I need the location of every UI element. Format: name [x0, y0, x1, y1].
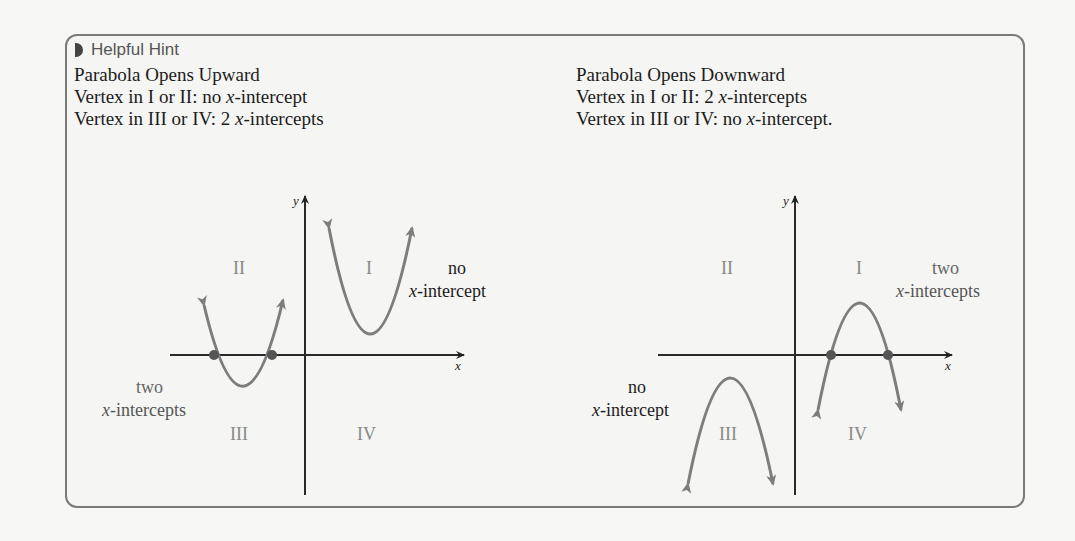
- quadrant-label-iii: III: [719, 424, 737, 445]
- annotation-x-intercept: x-intercept: [409, 281, 486, 302]
- graphs: [0, 0, 1075, 541]
- parabola-two-intercepts: [204, 300, 283, 386]
- annotation-x-intercepts: x-intercepts: [896, 281, 980, 302]
- quadrant-label-i: I: [366, 258, 372, 279]
- quadrant-label-iv: IV: [357, 424, 376, 445]
- x-axis-label: x: [455, 358, 461, 374]
- intercept-dot: [826, 350, 836, 360]
- annotation-no: no: [628, 377, 646, 398]
- quadrant-label-iv: IV: [848, 424, 867, 445]
- intercept-dot: [883, 350, 893, 360]
- parabola-no-intercept: [329, 228, 412, 334]
- annotation-two: two: [932, 258, 959, 279]
- intercept-dot: [209, 350, 219, 360]
- y-axis-label: y: [293, 193, 299, 209]
- downward-graph: [658, 196, 952, 495]
- y-axis-label: y: [783, 193, 789, 209]
- upward-graph: [170, 196, 464, 495]
- annotation-x-intercepts: x-intercepts: [102, 400, 186, 421]
- intercept-dot: [267, 350, 277, 360]
- annotation-no: no: [448, 258, 466, 279]
- quadrant-label-i: I: [856, 258, 862, 279]
- x-axis-label: x: [945, 358, 951, 374]
- quadrant-label-ii: II: [721, 258, 733, 279]
- annotation-x-intercept: x-intercept: [592, 400, 669, 421]
- quadrant-label-ii: II: [233, 258, 245, 279]
- annotation-two: two: [136, 377, 163, 398]
- quadrant-label-iii: III: [230, 424, 248, 445]
